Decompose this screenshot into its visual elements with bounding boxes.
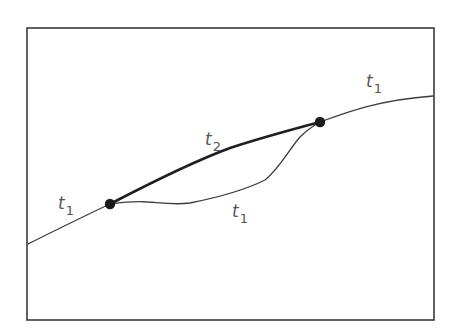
label-var: t (205, 129, 212, 149)
label-shortcut-t2: t2 (205, 131, 221, 148)
label-subscript: 2 (213, 139, 221, 154)
path-diagram (0, 0, 461, 333)
left-node (105, 199, 115, 209)
label-var: t (366, 71, 373, 91)
label-subscript: 1 (240, 211, 248, 226)
right-t1-segment (320, 96, 433, 122)
label-subscript: 1 (374, 81, 382, 96)
label-detour-t1: t1 (232, 203, 248, 220)
right-node (315, 117, 325, 127)
label-var: t (58, 193, 65, 213)
label-left-t1: t1 (58, 195, 74, 212)
label-var: t (232, 201, 239, 221)
label-subscript: 1 (66, 203, 74, 218)
label-right-t1: t1 (366, 73, 382, 90)
